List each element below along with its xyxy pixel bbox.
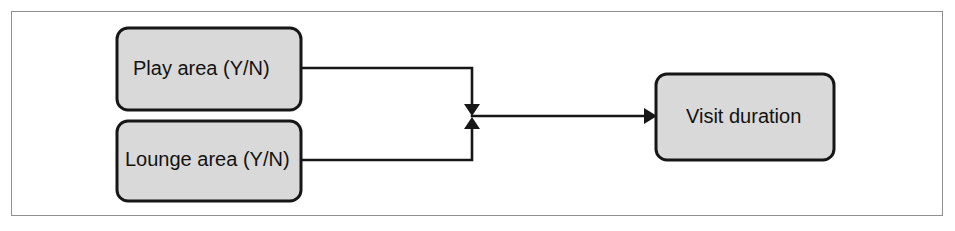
node-lounge-area[interactable]: Lounge area (Y/N) bbox=[117, 121, 301, 201]
node-visit-duration-label: Visit duration bbox=[686, 105, 801, 127]
flow-diagram: Play area (Y/N) Lounge area (Y/N) Visit … bbox=[0, 0, 955, 231]
edge-lounge-area-line bbox=[301, 127, 472, 160]
arrow-head-down-icon bbox=[464, 104, 480, 116]
node-lounge-area-label: Lounge area (Y/N) bbox=[125, 148, 290, 170]
node-visit-duration[interactable]: Visit duration bbox=[656, 74, 834, 160]
edge-play-area-line bbox=[301, 68, 472, 106]
arrow-head-up-icon bbox=[464, 117, 480, 129]
diagram-canvas: Play area (Y/N) Lounge area (Y/N) Visit … bbox=[0, 0, 955, 231]
edge-junction-to-visit-duration bbox=[472, 108, 657, 124]
edge-play-area-to-junction bbox=[301, 68, 480, 116]
edge-lounge-area-to-junction bbox=[301, 117, 480, 160]
node-play-area-label: Play area (Y/N) bbox=[133, 57, 270, 79]
node-play-area[interactable]: Play area (Y/N) bbox=[117, 28, 301, 110]
